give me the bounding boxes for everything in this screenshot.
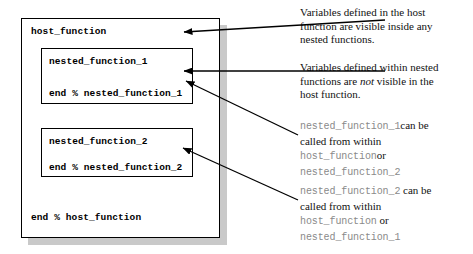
annotation-nested-scope-emphasis: not (360, 75, 374, 87)
annotation-nested-2-call: nested_function_2 can be called from wit… (300, 183, 473, 245)
annotation-nested-1-call: nested_function_1can be called from with… (300, 118, 473, 180)
annotation-nested-1-call-text-2: or (377, 149, 386, 161)
annotation-host-scope-line-1: Variables defined in the host (300, 6, 473, 20)
annotation-nested-1-call-line-1: nested_function_1can be (300, 118, 473, 134)
annotation-nested-scope-line-2-after: visible in the (374, 75, 434, 87)
annotation-nested-1-call-code-3: nested_function_2 (300, 167, 400, 178)
annotation-nested-1-call-code-1: nested_function_1 (300, 121, 400, 132)
annotation-nested-2-call-text-1: can be (400, 184, 431, 196)
annotation-nested-scope-line-3: host function. (300, 88, 473, 102)
annotation-nested-2-call-line-1: nested_function_2 can be (300, 183, 473, 199)
annotation-nested-1-call-line-4: nested_function_2 (300, 164, 473, 180)
nested-function-1-footer-label: end % nested_function_1 (49, 88, 182, 99)
host-function-header-label: host_function (31, 26, 106, 37)
annotation-nested-1-call-line-2: called from within (300, 134, 473, 148)
annotation-host-scope: Variables defined in the host function a… (300, 6, 473, 47)
nested-function-2-header-label: nested_function_2 (49, 136, 148, 147)
diagram-canvas: host_function end % host_function nested… (0, 0, 473, 254)
annotation-nested-2-call-code-1: nested_function_2 (300, 186, 400, 197)
annotation-nested-1-call-line-3: host_functionor (300, 148, 473, 164)
annotation-nested-scope-line-2: functions are not visible in the (300, 75, 473, 89)
annotation-nested-scope-line-1: Variables defined within nested (300, 61, 473, 75)
annotation-nested-2-call-line-3: host_function or (300, 213, 473, 229)
annotation-nested-2-call-text-2: or (377, 214, 389, 226)
annotation-nested-1-call-code-2: host_function (300, 151, 377, 162)
annotation-host-scope-line-2: function are visible inside any (300, 20, 473, 34)
annotation-nested-2-call-code-2: host_function (300, 216, 377, 227)
annotation-nested-2-call-code-3: nested_function_1 (300, 232, 400, 243)
annotation-host-scope-line-3: nested functions. (300, 33, 473, 47)
nested-function-2-footer-label: end % nested_function_2 (49, 162, 182, 173)
annotation-nested-2-call-line-4: nested_function_1 (300, 229, 473, 245)
nested-function-1-header-label: nested_function_1 (49, 56, 148, 67)
annotation-nested-2-call-line-2: called from within (300, 199, 473, 213)
annotation-nested-scope: Variables defined within nested function… (300, 61, 473, 102)
annotation-nested-scope-line-2-before: functions are (300, 75, 360, 87)
annotation-nested-1-call-text-1: can be (400, 119, 428, 131)
host-function-footer-label: end % host_function (31, 212, 141, 223)
